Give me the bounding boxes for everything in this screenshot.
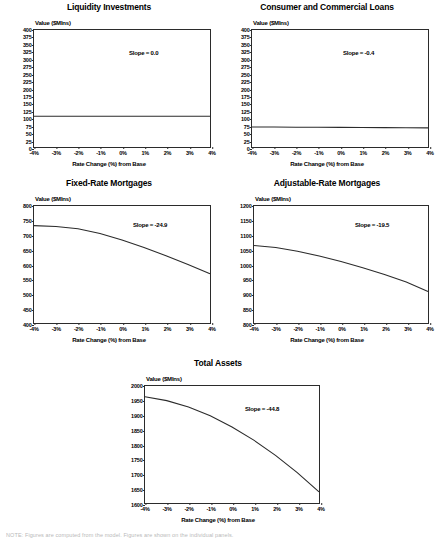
y-axis-tick: 1150 (240, 218, 254, 224)
y-axis-tick: 1050 (240, 248, 254, 254)
x-axis-tick: 4% (426, 323, 434, 332)
x-axis-tick: 0% (337, 147, 345, 156)
y-axis-tick: 350 (23, 42, 34, 48)
y-axis-tick: 1000 (240, 263, 254, 269)
y-axis-tick: 175 (23, 94, 34, 100)
series-line (34, 206, 210, 323)
figure-footnote: NOTE: Figures are computed from the mode… (6, 532, 430, 538)
plot-area: 0255075100125150175200225250275300325350… (33, 29, 211, 148)
y-axis-tick: 150 (241, 101, 252, 107)
y-axis-tick: 2000 (131, 383, 145, 389)
x-axis-tick: 0% (119, 147, 127, 156)
y-axis-tick: 1850 (131, 428, 145, 434)
y-axis-tick: 75 (26, 124, 34, 130)
y-axis-tick: 500 (23, 292, 34, 298)
x-axis-tick: 3% (295, 503, 303, 512)
x-axis-tick: -2% (74, 147, 83, 156)
chart-title: Consumer and Commercial Loans (218, 2, 436, 13)
x-axis-label: Rate Change (%) from Base (109, 517, 327, 523)
y-axis-tick: 850 (243, 307, 254, 313)
y-axis-tick: 225 (23, 79, 34, 85)
x-axis-label: Rate Change (%) from Base (218, 161, 436, 167)
chart-title: Fixed-Rate Mortgages (0, 178, 218, 189)
x-axis-tick: 4% (317, 503, 325, 512)
y-axis-tick: 100 (241, 116, 252, 122)
panel-total-assets: Total Assets Value ($Mlns) 1600165017001… (109, 358, 327, 530)
x-axis-tick: 0% (119, 323, 127, 332)
x-axis-tick: 1% (360, 323, 368, 332)
data-polyline (34, 226, 210, 274)
x-axis-tick: -3% (52, 323, 61, 332)
slope-annotation: Slope = -24.9 (133, 222, 167, 228)
series-line (254, 206, 428, 323)
x-axis-tick: -1% (314, 147, 323, 156)
y-axis-tick: 250 (241, 72, 252, 78)
y-axis-tick: 275 (241, 64, 252, 70)
chart-title: Liquidity Investments (0, 2, 218, 13)
y-axis-tick: 700 (23, 233, 34, 239)
x-axis-tick: 2% (164, 147, 172, 156)
y-axis-tick: 1650 (131, 487, 145, 493)
plot-area: 160016501700175018001850190019502000-4%-… (144, 385, 320, 504)
y-axis-tick: 325 (23, 49, 34, 55)
x-axis-tick: 3% (186, 323, 194, 332)
x-axis-tick: -3% (271, 323, 280, 332)
x-axis-tick: 2% (164, 323, 172, 332)
y-axis-tick: 100 (23, 116, 34, 122)
series-line (252, 30, 428, 147)
y-axis-tick: 125 (241, 109, 252, 115)
y-axis-tick: 800 (23, 203, 34, 209)
y-axis-tick: 225 (241, 79, 252, 85)
x-axis-tick: -3% (52, 147, 61, 156)
chart-title: Adjustable-Rate Mortgages (218, 178, 436, 189)
y-axis-tick: 600 (23, 263, 34, 269)
x-axis-tick: 4% (208, 323, 216, 332)
y-axis-tick: 300 (241, 57, 252, 63)
y-axis-tick: 550 (23, 277, 34, 283)
data-polyline (252, 127, 428, 128)
y-axis-label: Value ($Mlns) (35, 20, 71, 26)
y-axis-tick: 125 (23, 109, 34, 115)
x-axis-tick: 3% (404, 147, 412, 156)
y-axis-tick: 1100 (240, 233, 254, 239)
x-axis-tick: -4% (29, 323, 38, 332)
x-axis-tick: -1% (96, 147, 105, 156)
y-axis-tick: 1950 (131, 398, 145, 404)
y-axis-tick: 450 (23, 307, 34, 313)
y-axis-tick: 325 (241, 49, 252, 55)
y-axis-tick: 400 (23, 27, 34, 33)
y-axis-tick: 1750 (131, 457, 145, 463)
y-axis-label: Value ($Mlns) (146, 376, 182, 382)
x-axis-tick: -1% (206, 503, 215, 512)
x-axis-tick: -2% (292, 147, 301, 156)
x-axis-tick: 0% (338, 323, 346, 332)
y-axis-label: Value ($Mlns) (35, 196, 71, 202)
x-axis-tick: 1% (359, 147, 367, 156)
y-axis-tick: 1800 (131, 443, 145, 449)
y-axis-tick: 1700 (131, 472, 145, 478)
x-axis-tick: 3% (186, 147, 194, 156)
slope-annotation: Slope = -19.5 (355, 222, 389, 228)
y-axis-tick: 50 (244, 131, 252, 137)
y-axis-tick: 300 (23, 57, 34, 63)
x-axis-tick: 2% (382, 323, 390, 332)
y-axis-tick: 200 (23, 87, 34, 93)
x-axis-label: Rate Change (%) from Base (0, 337, 218, 343)
y-axis-tick: 150 (23, 101, 34, 107)
slope-annotation: Slope = -0.4 (343, 50, 374, 56)
y-axis-tick: 950 (243, 277, 254, 283)
x-axis-tick: -2% (293, 323, 302, 332)
x-axis-tick: -2% (184, 503, 193, 512)
y-axis-tick: 200 (241, 87, 252, 93)
y-axis-tick: 50 (26, 131, 34, 137)
y-axis-tick: 75 (244, 124, 252, 130)
x-axis-tick: -2% (74, 323, 83, 332)
y-axis-label: Value ($Mlns) (255, 196, 291, 202)
x-axis-tick: -3% (162, 503, 171, 512)
x-axis-tick: 4% (426, 147, 434, 156)
y-axis-tick: 25 (26, 139, 34, 145)
x-axis-tick: 4% (208, 147, 216, 156)
x-axis-label: Rate Change (%) from Base (0, 161, 218, 167)
slope-annotation: Slope = -44.8 (245, 406, 279, 412)
y-axis-label: Value ($Mlns) (253, 20, 289, 26)
